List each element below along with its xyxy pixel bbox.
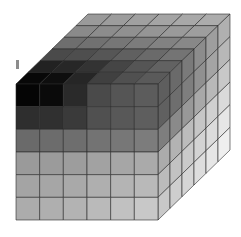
front-voxel xyxy=(134,107,158,130)
front-voxel xyxy=(134,197,158,220)
front-voxel xyxy=(87,175,111,198)
front-voxel xyxy=(111,175,135,198)
small-marker xyxy=(16,60,19,69)
front-voxel xyxy=(63,152,87,175)
front-voxel xyxy=(16,175,40,198)
front-voxel xyxy=(16,84,40,107)
front-voxel xyxy=(87,107,111,130)
front-voxel xyxy=(40,175,64,198)
front-voxel xyxy=(40,197,64,220)
front-voxel xyxy=(16,129,40,152)
voxel-cube-figure xyxy=(0,0,241,237)
front-voxel xyxy=(87,152,111,175)
front-voxel xyxy=(63,175,87,198)
front-voxel xyxy=(40,129,64,152)
front-voxel xyxy=(111,197,135,220)
front-voxel xyxy=(63,107,87,130)
front-voxel xyxy=(40,152,64,175)
front-voxel xyxy=(111,107,135,130)
front-voxel xyxy=(87,197,111,220)
front-voxel xyxy=(111,129,135,152)
front-voxel xyxy=(16,197,40,220)
front-voxel xyxy=(63,197,87,220)
front-voxel xyxy=(134,84,158,107)
cube-front-face xyxy=(16,84,158,220)
front-voxel xyxy=(134,129,158,152)
front-voxel xyxy=(134,152,158,175)
front-voxel xyxy=(63,129,87,152)
front-voxel xyxy=(40,84,64,107)
front-voxel xyxy=(63,84,87,107)
front-voxel xyxy=(16,107,40,130)
front-voxel xyxy=(111,152,135,175)
voxel-cube xyxy=(0,0,241,237)
front-voxel xyxy=(16,152,40,175)
front-voxel xyxy=(87,129,111,152)
front-voxel xyxy=(87,84,111,107)
front-voxel xyxy=(134,175,158,198)
front-voxel xyxy=(111,84,135,107)
front-voxel xyxy=(40,107,64,130)
